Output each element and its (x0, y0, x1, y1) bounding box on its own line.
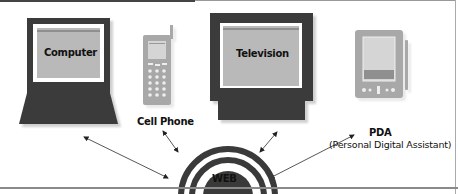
pda-sublabel: (Personal Digital Assistant) (329, 139, 451, 150)
television-icon (210, 13, 313, 120)
arrow-computer-web (84, 137, 168, 178)
pda-icon (355, 30, 408, 98)
television-label: Television (236, 48, 289, 59)
diagram-canvas (0, 0, 458, 194)
connection-arrows (84, 131, 354, 178)
arrow-phone-web (163, 131, 178, 152)
web-hub-label: WEB (212, 173, 237, 184)
pda-label: PDA (369, 127, 391, 138)
baseline-rule (0, 187, 458, 189)
cell-phone-label: Cell Phone (137, 116, 194, 127)
computer-label: Computer (44, 47, 97, 58)
arrow-tv-web (260, 132, 277, 152)
cell-phone-icon (143, 25, 173, 105)
laptop-icon (19, 18, 118, 124)
